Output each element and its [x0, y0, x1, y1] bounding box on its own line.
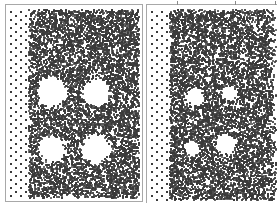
particle-field-right — [147, 5, 277, 203]
simulation-panel-right — [146, 4, 277, 203]
simulation-panel-left — [5, 4, 143, 202]
particle-field-left — [6, 5, 142, 201]
